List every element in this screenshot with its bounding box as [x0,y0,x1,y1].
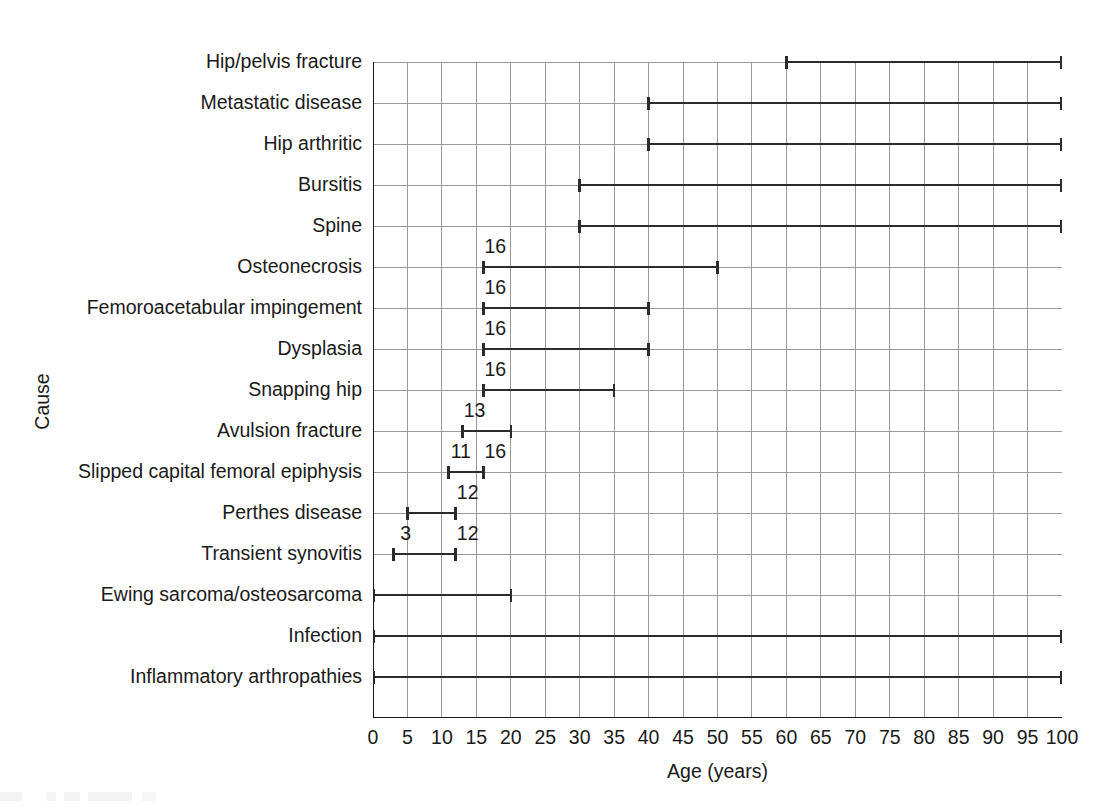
scan-artifact [0,792,160,801]
y-axis-tick-label: Snapping hip [0,380,362,400]
x-axis-tick-label: 5 [402,728,413,748]
range-bar [649,97,1062,110]
x-axis-tick-label: 85 [948,728,970,748]
range-bar [786,56,1062,69]
y-axis-tick-label: Spine [0,216,362,236]
range-bar [373,671,1062,684]
y-axis-tick-label: Transient synovitis [0,544,362,564]
x-axis-tick-label: 45 [672,728,694,748]
x-axis-tick-label: 20 [500,728,522,748]
bar-value-label: 16 [484,237,506,257]
x-axis-tick-label: 95 [1017,728,1039,748]
x-axis-tick-label: 10 [431,728,453,748]
y-axis-title: Cause [31,342,54,462]
y-axis-tick-label: Perthes disease [0,503,362,523]
y-axis-tick-label: Slipped capital femoral epiphysis [0,462,362,482]
x-axis-tick-label: 80 [913,728,935,748]
bar-value-label: 13 [464,401,486,421]
bar-value-label: 16 [484,278,506,298]
x-axis-tick-label: 15 [465,728,487,748]
bar-value-label: 16 [484,360,506,380]
y-axis-tick-label: Metastatic disease [0,93,362,113]
range-bar [483,302,648,315]
bar-value-label: 11 [451,442,471,462]
range-bar [483,343,648,356]
bar-value-label: 12 [457,483,479,503]
range-bar [580,220,1062,233]
y-axis-tick-label: Ewing sarcoma/osteosarcoma [0,585,362,605]
x-axis-title: Age (years) [373,760,1062,783]
range-bar [580,179,1062,192]
y-axis-tick-label: Osteonecrosis [0,257,362,277]
y-axis-tick-label: Hip arthritic [0,134,362,154]
range-bar [407,507,455,520]
x-axis-tick-label: 60 [776,728,798,748]
x-axis-tick-label: 40 [638,728,660,748]
range-bar [373,589,511,602]
y-axis-tick-label: Inflammatory arthropathies [0,667,362,687]
range-bar [463,425,511,438]
y-axis-tick-label: Infection [0,626,362,646]
y-axis-tick-label: Dysplasia [0,339,362,359]
range-bar [394,548,456,561]
x-axis-tick-label: 25 [534,728,556,748]
x-axis-tick-label: 30 [569,728,591,748]
range-bars-group [373,62,1062,718]
x-axis-tick-label: 100 [1046,728,1079,748]
y-axis-tick-label: Hip/pelvis fracture [0,52,362,72]
bar-value-label: 16 [484,442,506,462]
range-bar [649,138,1062,151]
x-axis-tick-label: 55 [741,728,763,748]
range-bar-chart-figure: Cause Hip/pelvis fractureMetastatic dise… [0,0,1115,811]
x-axis-tick-label: 0 [368,728,379,748]
y-axis-tick-label: Femoroacetabular impingement [0,298,362,318]
range-bar [483,261,717,274]
range-bar [483,384,614,397]
plot-area [373,62,1062,718]
x-axis-tick-label: 65 [810,728,832,748]
x-axis-tick-label: 90 [982,728,1004,748]
range-bar [373,630,1062,643]
bar-value-label: 16 [484,319,506,339]
x-axis-tick-label: 75 [879,728,901,748]
x-axis-tick-label: 50 [707,728,729,748]
y-axis-tick-label: Bursitis [0,175,362,195]
bar-value-label: 3 [400,524,411,544]
y-axis-tick-label: Avulsion fracture [0,421,362,441]
x-axis-tick-label: 35 [603,728,625,748]
bar-value-label: 12 [457,524,479,544]
x-axis-tick-label: 70 [844,728,866,748]
range-bar [449,466,483,479]
